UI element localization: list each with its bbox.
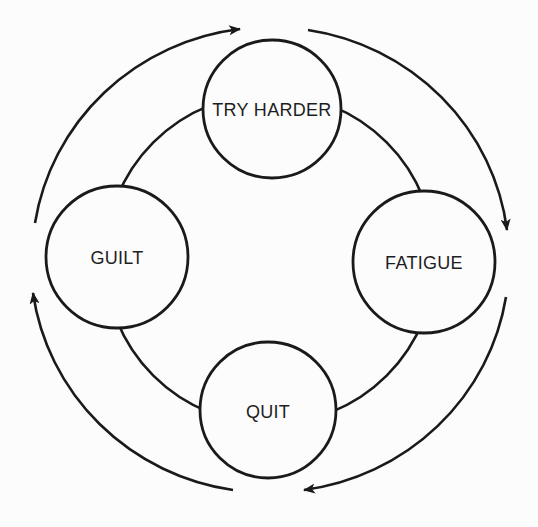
node-label: QUIT xyxy=(246,402,290,422)
node-label: TRY HARDER xyxy=(212,100,331,120)
node-try-harder: TRY HARDER xyxy=(203,40,341,178)
node-fatigue: FATIGUE xyxy=(353,191,495,333)
node-quit: QUIT xyxy=(200,342,336,478)
node-label: FATIGUE xyxy=(385,253,463,273)
node-label: GUILT xyxy=(90,248,143,268)
node-guilt: GUILT xyxy=(46,186,188,328)
vicious-cycle-diagram: TRY HARDER FATIGUE QUIT GUILT xyxy=(0,0,538,527)
